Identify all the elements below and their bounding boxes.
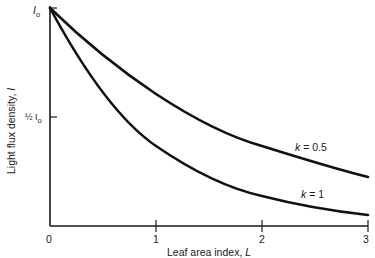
x-label-0: 0 (46, 233, 52, 245)
y-label-i0: Io (33, 4, 40, 19)
curve-k-1 (50, 8, 368, 215)
y-axis-title: Light flux density, I (5, 88, 17, 174)
x-axis-title: Leaf area index, L (167, 246, 251, 258)
light-extinction-chart: Io ½ Io 0 1 2 3 Leaf area index, L Light… (0, 0, 375, 258)
x-label-2: 2 (259, 233, 265, 245)
y-label-half-i0: ½ Io (25, 112, 42, 125)
x-label-1: 1 (153, 233, 159, 245)
curve-label-k-1: k = 1 (301, 188, 324, 200)
x-label-3: 3 (363, 233, 369, 245)
curve-label-k-0.5: k = 0.5 (295, 141, 327, 153)
